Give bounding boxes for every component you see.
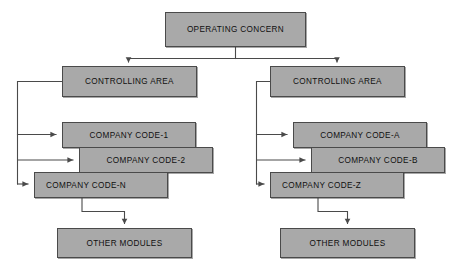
diagram-canvas: OPERATING CONCERN CONTROLLING AREA CONTR… — [0, 0, 463, 270]
node-company-code-2[interactable]: COMPANY CODE-2 — [79, 147, 213, 173]
node-company-code-1[interactable]: COMPANY CODE-1 — [62, 122, 196, 148]
node-label-other-modules-right: OTHER MODULES — [310, 239, 386, 248]
node-label-company-code-b: COMPANY CODE-B — [338, 156, 418, 165]
node-label-other-modules-left: OTHER MODULES — [87, 239, 163, 248]
node-company-code-n[interactable]: COMPANY CODE-N — [34, 172, 168, 198]
node-label-company-code-z: COMPANY CODE-Z — [282, 181, 361, 190]
node-company-code-z[interactable]: COMPANY CODE-Z — [270, 172, 404, 198]
node-company-code-a[interactable]: COMPANY CODE-A — [293, 122, 427, 148]
edge-trunk-left — [18, 82, 63, 185]
edge-company-code-n-to-other-modules-left — [82, 198, 125, 224]
node-label-company-code-a: COMPANY CODE-A — [320, 131, 400, 140]
node-controlling-area-left[interactable]: CONTROLLING AREA — [62, 66, 197, 97]
node-label-operating-concern: OPERATING CONCERN — [187, 25, 284, 34]
node-label-controlling-area-left: CONTROLLING AREA — [85, 77, 174, 86]
node-other-modules-left[interactable]: OTHER MODULES — [57, 228, 192, 258]
node-label-company-code-1: COMPANY CODE-1 — [90, 131, 169, 140]
edge-trunk-right — [257, 82, 271, 185]
node-other-modules-right[interactable]: OTHER MODULES — [280, 228, 415, 258]
node-controlling-area-right[interactable]: CONTROLLING AREA — [270, 66, 405, 97]
node-label-company-code-2: COMPANY CODE-2 — [107, 156, 186, 165]
edge-company-code-z-to-other-modules-right — [318, 198, 348, 224]
node-label-company-code-n: COMPANY CODE-N — [46, 181, 126, 190]
node-label-controlling-area-right: CONTROLLING AREA — [293, 77, 382, 86]
node-company-code-b[interactable]: COMPANY CODE-B — [311, 147, 445, 173]
node-operating-concern[interactable]: OPERATING CONCERN — [165, 12, 306, 47]
